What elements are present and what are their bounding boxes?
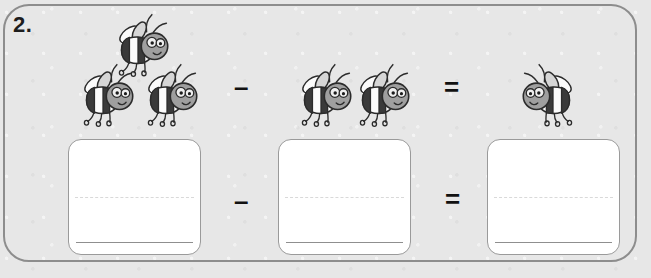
guide-midline xyxy=(285,197,404,198)
guide-baseline xyxy=(286,242,403,243)
bee-icon xyxy=(290,62,356,128)
guide-midline xyxy=(75,197,194,198)
picture-minus-operator: – xyxy=(234,74,248,100)
bee-icon xyxy=(136,62,202,128)
answer-equals-operator: = xyxy=(445,186,460,212)
worksheet-page: 2. xyxy=(0,0,651,278)
bee-icon xyxy=(348,62,414,128)
guide-baseline xyxy=(76,242,193,243)
subtrahend-answer-box[interactable] xyxy=(278,139,411,255)
bee-icon xyxy=(518,62,584,128)
result-answer-box[interactable] xyxy=(487,139,620,255)
minuend-answer-box[interactable] xyxy=(68,139,201,255)
answer-minus-operator: – xyxy=(234,188,248,214)
picture-equals-operator: = xyxy=(444,74,459,100)
guide-midline xyxy=(494,197,613,198)
bee-icon xyxy=(72,62,138,128)
question-number: 2. xyxy=(13,14,32,36)
guide-baseline xyxy=(495,242,612,243)
